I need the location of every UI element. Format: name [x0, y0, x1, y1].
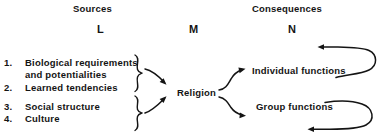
arrow-sources-1-2-to-religion: [145, 69, 167, 85]
feedback-loop-individual-functions: [318, 44, 376, 77]
brace-group-1-2: [135, 55, 142, 92]
diagram-canvas: Sources L M Consequences N 1. Biological…: [0, 0, 388, 137]
arrow-sources-3-4-to-religion: [145, 96, 167, 113]
brace-group-3-4: [135, 96, 142, 131]
arrow-religion-to-individual-functions: [219, 68, 246, 90]
feedback-loop-group-functions: [308, 101, 373, 132]
arrow-religion-to-group-functions: [219, 97, 246, 118]
connector-overlay: [0, 0, 388, 137]
